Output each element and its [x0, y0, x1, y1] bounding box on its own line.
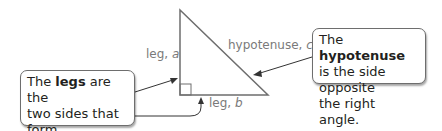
- legs-arrow-to-leg-a: [135, 79, 176, 92]
- legs-callout: The legs are the two sides that form the…: [20, 70, 135, 126]
- right-angle-marker: [180, 84, 191, 95]
- hypotenuse-label: hypotenuse, c: [228, 38, 313, 52]
- hypotenuse-arrow: [257, 57, 312, 74]
- arrowhead-icon: [198, 97, 204, 104]
- leg-b-label: leg, b: [209, 96, 243, 110]
- leg-a-label: leg, a: [146, 47, 179, 61]
- hypotenuse-callout-line3: the right angle.: [319, 96, 419, 128]
- hypotenuse-callout-line1: The hypotenuse: [319, 32, 419, 64]
- arrowhead-icon: [253, 70, 262, 77]
- legs-callout-line1: The legs are the: [27, 74, 128, 106]
- right-triangle: [180, 10, 268, 95]
- legs-arrow-to-leg-b: [135, 101, 201, 116]
- hypotenuse-callout: The hypotenuse is the side opposite the …: [312, 28, 426, 84]
- hypotenuse-callout-line2: is the side opposite: [319, 64, 419, 96]
- legs-callout-line2: two sides that form: [27, 106, 128, 131]
- arrowhead-icon: [170, 78, 178, 84]
